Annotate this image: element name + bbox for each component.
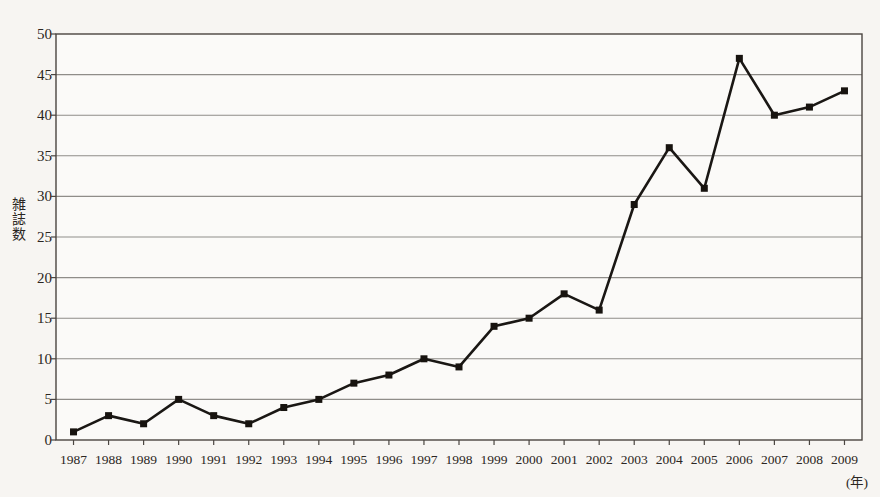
line-chart-plot (0, 0, 880, 497)
data-point-marker (420, 355, 427, 362)
data-point-marker (526, 315, 533, 322)
data-point-marker (350, 380, 357, 387)
data-point-marker (736, 55, 743, 62)
data-point-marker (280, 404, 287, 411)
data-point-marker (841, 87, 848, 94)
data-point-marker (105, 412, 112, 419)
data-point-marker (210, 412, 217, 419)
data-point-marker (385, 372, 392, 379)
data-point-marker (315, 396, 322, 403)
data-point-marker (806, 104, 813, 111)
data-point-marker (175, 396, 182, 403)
data-point-marker (70, 428, 77, 435)
data-point-marker (245, 420, 252, 427)
data-point-marker (491, 323, 498, 330)
data-point-marker (666, 144, 673, 151)
data-point-marker (631, 201, 638, 208)
data-point-marker (140, 420, 147, 427)
data-point-marker (771, 112, 778, 119)
data-point-marker (701, 185, 708, 192)
data-point-marker (596, 307, 603, 314)
data-point-marker (561, 290, 568, 297)
chart-page: 雑 誌 数 05101520253035404550 1987198819891… (0, 0, 880, 497)
data-point-marker (456, 363, 463, 370)
